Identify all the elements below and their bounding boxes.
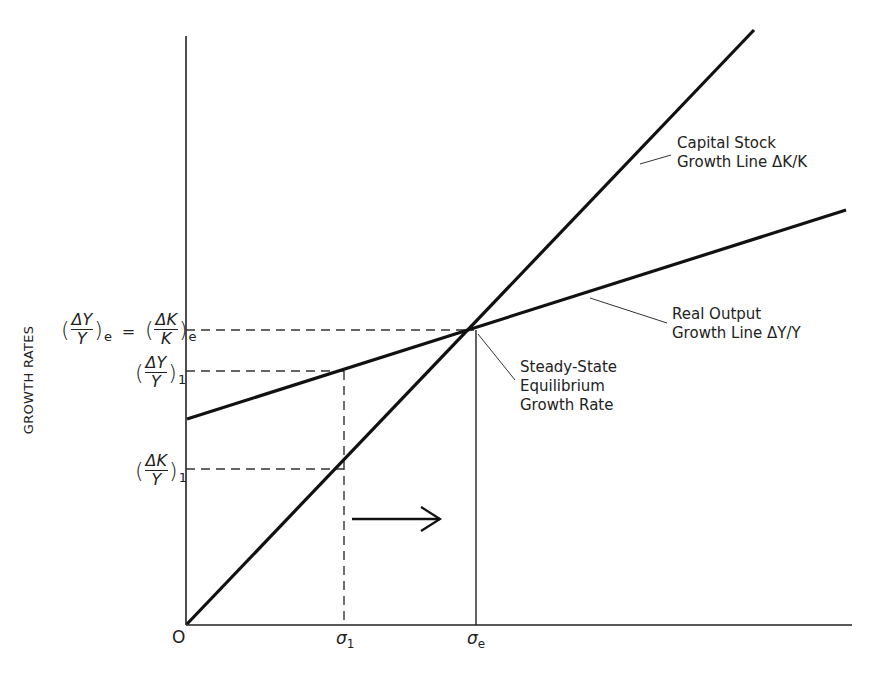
origin-label: O bbox=[172, 628, 185, 647]
sigma-1-tick-label: σ1 bbox=[336, 629, 354, 654]
equilibrium-y-tick-label: ( ΔY Y ) e = ( ΔK K ) e bbox=[61, 311, 197, 348]
capital-stock-growth-line bbox=[187, 30, 754, 624]
real-output-line-label: Real Output Growth Line ΔY/Y bbox=[672, 305, 801, 343]
right-arrow-icon bbox=[352, 507, 440, 531]
steady-state-label: Steady-State Equilibrium Growth Rate bbox=[520, 358, 617, 415]
capital-label-leader bbox=[640, 155, 671, 164]
output-label-leader bbox=[590, 298, 667, 323]
steady-state-leader bbox=[478, 334, 515, 380]
y-axis-label: GROWTH RATES bbox=[8, 300, 48, 460]
output-sigma1-y-tick-label: ( ΔY Y ) 1 bbox=[135, 354, 186, 391]
capital-sigma1-y-tick-label: ( ΔK Y ) 1 bbox=[135, 452, 187, 489]
sigma-e-tick-label: σe bbox=[467, 629, 485, 654]
capital-stock-line-label: Capital Stock Growth Line ΔK/K bbox=[677, 134, 807, 172]
